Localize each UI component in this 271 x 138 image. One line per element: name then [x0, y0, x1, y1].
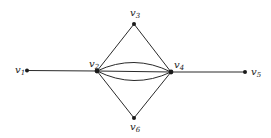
vertex-v3 [132, 22, 136, 26]
vertex-label-v6: v6 [130, 121, 141, 134]
edge-v2-v4-curve-down [97, 71, 171, 81]
edge-v1-v2-straight [27, 71, 97, 72]
edge-v2-v3-straight [97, 24, 134, 71]
edge-v2-v4-straight [97, 71, 171, 72]
vertex-v4 [169, 70, 174, 75]
edge-v2-v4-curve-up [97, 62, 171, 72]
vertex-v6 [132, 116, 136, 120]
vertex-v5 [243, 70, 247, 74]
vertex-label-v3: v3 [130, 7, 141, 20]
vertex-label-v4: v4 [174, 59, 184, 72]
edges-group [27, 24, 245, 118]
vertex-label-v2: v2 [89, 58, 100, 71]
vertex-v1 [25, 69, 29, 73]
vertex-label-v1: v1 [15, 64, 25, 77]
vertex-label-v5: v5 [251, 66, 262, 79]
graph-diagram: v1v2v3v4v5v6 [0, 0, 271, 138]
